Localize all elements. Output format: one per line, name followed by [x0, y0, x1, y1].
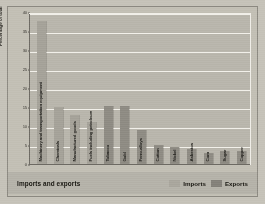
bar-group: Machinery and transportation equipmentCh… — [30, 14, 250, 164]
bar-slot: Copper — [233, 14, 250, 164]
bar-slot: Cotton — [150, 14, 167, 164]
bar-category-label: Copper — [239, 148, 244, 162]
y-tick-label: 5 — [25, 144, 27, 148]
legend-item[interactable]: Exports — [211, 180, 248, 187]
y-tick-label: 40 — [23, 11, 27, 15]
bar-slot: Fuels including petroleum — [83, 14, 100, 164]
legend-label: Exports — [225, 180, 248, 187]
y-tick-label: 25 — [23, 68, 27, 72]
y-tick-label: 20 — [23, 87, 27, 91]
plot-area: Machinery and transportation equipmentCh… — [29, 13, 251, 165]
bar-category-label: Corn — [206, 152, 211, 162]
y-axis-title: Percentage of total — [0, 7, 3, 46]
x-axis-line — [29, 164, 250, 165]
bar-category-label: Fuels including petroleum — [89, 111, 94, 162]
bar-slot: Sugar — [217, 14, 234, 164]
bar-slot: Manufactured goods — [66, 14, 83, 164]
bar-category-label: Tobacco — [106, 145, 111, 162]
bar-category-label: Gold — [122, 153, 127, 162]
y-tick-label: 10 — [23, 125, 27, 129]
legend: ImportsExports — [169, 180, 248, 187]
bar-category-label: Manufactured goods — [72, 122, 77, 162]
bar-slot: Machinery and transportation equipment — [33, 14, 50, 164]
bar-slot: Corn — [200, 14, 217, 164]
bar-category-label: Nickel — [173, 150, 178, 162]
bar-slot: Ferro-alloys — [133, 14, 150, 164]
legend-swatch — [211, 180, 222, 187]
bar-category-label: Sugar — [223, 150, 228, 162]
scanned-page: Percentage of total 0510152025303540 Mac… — [0, 0, 265, 204]
y-tick-label: 30 — [23, 49, 27, 53]
bar-slot: Asbestos — [183, 14, 200, 164]
bar-slot: Nickel — [167, 14, 184, 164]
bar-slot: Gold — [116, 14, 133, 164]
bar-slot: Chemicals — [50, 14, 67, 164]
legend-swatch — [169, 180, 180, 187]
plot-background: Machinery and transportation equipmentCh… — [29, 13, 251, 165]
chart-title: Imports and exports — [17, 180, 80, 187]
y-tick-label: 35 — [23, 30, 27, 34]
bar-slot: Tobacco — [100, 14, 117, 164]
legend-label: Imports — [183, 180, 206, 187]
bar-category-label: Cotton — [156, 149, 161, 162]
y-tick-label: 15 — [23, 106, 27, 110]
bar-category-label: Chemicals — [56, 141, 61, 162]
y-tick-label: 0 — [25, 163, 27, 167]
caption-bar: Imports and exports ImportsExports — [8, 172, 257, 194]
bar-category-label: Asbestos — [189, 143, 194, 162]
bar-category-label: Machinery and transportation equipment — [39, 83, 44, 162]
legend-item[interactable]: Imports — [169, 180, 206, 187]
y-axis-ticks: 0510152025303540 — [13, 13, 28, 165]
bar-category-label: Ferro-alloys — [139, 139, 144, 162]
